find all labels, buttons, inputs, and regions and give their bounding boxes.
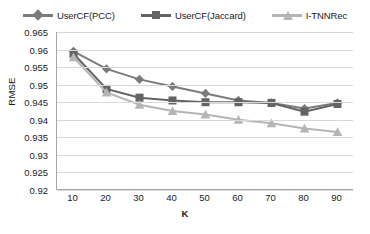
gridline (57, 120, 353, 121)
x-axis-tick-label: 20 (100, 192, 111, 203)
series-lines (57, 32, 353, 189)
legend-label-usercf-jaccard: UserCF(Jaccard) (175, 10, 246, 21)
chart-legend: UserCF(PCC) UserCF(Jaccard) I-TNNRec (0, 6, 370, 24)
y-axis-tick-label: 0.945 (24, 97, 48, 108)
gridline (57, 102, 353, 103)
data-point-marker (301, 108, 309, 116)
legend-item-usercf-jaccard: UserCF(Jaccard) (141, 9, 246, 21)
data-point-marker (201, 89, 210, 98)
y-axis-tick-label: 0.925 (24, 167, 48, 178)
legend-marker-triangle-icon (272, 9, 302, 21)
gridline (57, 190, 353, 191)
x-axis-tick-label: 40 (166, 192, 177, 203)
legend-marker-diamond-icon (23, 9, 53, 21)
y-axis-tick-label: 0.955 (24, 62, 48, 73)
y-axis-tick-label: 0.93 (30, 149, 49, 160)
square-icon (152, 11, 160, 19)
data-point-marker (102, 64, 111, 73)
legend-item-usercf-pcc: UserCF(PCC) (23, 9, 115, 21)
y-axis-tick-labels: 0.9650.960.9550.950.9450.940.9350.930.92… (0, 32, 52, 190)
gridline (57, 67, 353, 68)
x-axis-tick-label: 60 (232, 192, 243, 203)
gridline (57, 172, 353, 173)
gridline (57, 137, 353, 138)
data-point-marker (169, 96, 177, 104)
legend-marker-square-icon (141, 9, 171, 21)
gridline (57, 50, 353, 51)
diamond-icon (32, 9, 43, 20)
x-axis-tick-label: 80 (298, 192, 309, 203)
y-axis-tick-label: 0.96 (30, 44, 49, 55)
plot-area (56, 32, 353, 190)
x-axis-tick-labels: 102030405060708090 (56, 192, 353, 206)
gridline (57, 155, 353, 156)
data-point-marker (135, 75, 144, 84)
legend-label-i-tnnrec: I-TNNRec (306, 10, 347, 21)
data-point-marker (168, 82, 177, 91)
legend-label-usercf-pcc: UserCF(PCC) (57, 10, 115, 21)
x-axis-tick-label: 10 (67, 192, 78, 203)
legend-item-i-tnnrec: I-TNNRec (272, 9, 347, 21)
y-axis-tick-label: 0.965 (24, 27, 48, 38)
triangle-icon (283, 11, 293, 20)
x-axis-tick-label: 90 (331, 192, 342, 203)
y-axis-tick-label: 0.94 (30, 114, 49, 125)
x-axis-title: K (0, 208, 370, 219)
rmse-line-chart: UserCF(PCC) UserCF(Jaccard) I-TNNRec RMS… (0, 0, 370, 234)
gridline (57, 32, 353, 33)
x-axis-tick-label: 50 (199, 192, 210, 203)
y-axis-tick-label: 0.95 (30, 79, 49, 90)
x-axis-tick-label: 70 (265, 192, 276, 203)
data-point-marker (334, 100, 342, 108)
y-axis-tick-label: 0.92 (30, 185, 49, 196)
y-axis-tick-label: 0.935 (24, 132, 48, 143)
gridline (57, 85, 353, 86)
x-axis-tick-label: 30 (133, 192, 144, 203)
